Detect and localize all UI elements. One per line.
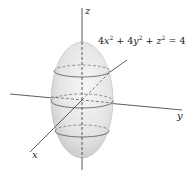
ellipsoid-diagram (0, 0, 192, 171)
x-axis-label: x (32, 150, 38, 160)
ellipsoid-equation: 4x2 + 4y2 + z2 = 4 (98, 34, 185, 46)
y-axis-label: y (177, 111, 183, 121)
z-axis-label: z (85, 6, 90, 16)
